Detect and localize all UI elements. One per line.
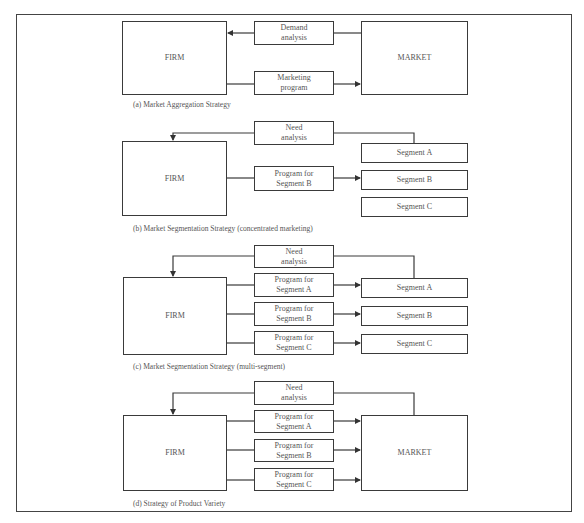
b-need-analysis-box: Need analysis xyxy=(254,121,334,145)
d-firm-label: FIRM xyxy=(165,448,185,458)
c-program-b-box: Program for Segment B xyxy=(254,302,334,326)
d-program-b-label: Program for Segment B xyxy=(275,441,314,461)
b-segment-b-label: Segment B xyxy=(397,175,432,185)
b-caption: (b) Market Segmentation Strategy (concen… xyxy=(133,224,313,233)
a-demand-analysis-box: Demand analysis xyxy=(254,21,334,45)
c-need-analysis-label: Need analysis xyxy=(281,247,307,267)
c-caption: (c) Market Segmentation Strategy (multi-… xyxy=(133,362,285,371)
a-firm-box: FIRM xyxy=(122,21,227,95)
c-segment-b-label: Segment B xyxy=(397,311,432,321)
a-caption: (a) Market Aggregation Strategy xyxy=(133,100,231,109)
a-firm-label: FIRM xyxy=(165,53,185,63)
d-market-label: MARKET xyxy=(398,448,432,458)
c-segment-b-box: Segment B xyxy=(361,306,468,326)
d-program-a-label: Program for Segment A xyxy=(275,412,314,432)
d-need-analysis-box: Need analysis xyxy=(254,381,334,405)
c-program-a-box: Program for Segment A xyxy=(254,273,334,297)
a-marketing-program-box: Marketing program xyxy=(254,71,334,95)
a-marketing-program-label: Marketing program xyxy=(277,73,310,93)
d-market-box: MARKET xyxy=(361,415,468,491)
c-segment-a-label: Segment A xyxy=(397,283,432,293)
b-program-b-box: Program for Segment B xyxy=(254,166,334,191)
d-caption: (d) Strategy of Product Variety xyxy=(133,499,225,508)
c-program-a-label: Program for Segment A xyxy=(275,275,314,295)
a-demand-analysis-label: Demand analysis xyxy=(280,23,307,43)
c-program-b-label: Program for Segment B xyxy=(275,304,314,324)
c-need-analysis-box: Need analysis xyxy=(254,245,334,268)
b-firm-box: FIRM xyxy=(122,141,227,216)
b-segment-c-label: Segment C xyxy=(397,202,432,212)
d-firm-box: FIRM xyxy=(123,415,227,491)
b-need-analysis-label: Need analysis xyxy=(281,123,307,143)
a-market-label: MARKET xyxy=(398,53,432,63)
c-firm-label: FIRM xyxy=(165,311,185,321)
b-segment-c-box: Segment C xyxy=(361,197,468,217)
d-program-b-box: Program for Segment B xyxy=(254,439,334,462)
d-program-a-box: Program for Segment A xyxy=(254,410,334,433)
a-market-box: MARKET xyxy=(361,21,468,95)
b-program-b-label: Program for Segment B xyxy=(275,169,314,189)
c-segment-c-label: Segment C xyxy=(397,339,432,349)
c-firm-box: FIRM xyxy=(123,277,227,355)
b-segment-b-box: Segment B xyxy=(361,170,468,190)
d-program-c-label: Program for Segment C xyxy=(275,470,314,490)
b-firm-label: FIRM xyxy=(165,174,185,184)
c-segment-a-box: Segment A xyxy=(361,278,468,298)
b-segment-a-label: Segment A xyxy=(397,148,432,158)
c-segment-c-box: Segment C xyxy=(361,334,468,354)
b-segment-a-box: Segment A xyxy=(361,143,468,163)
c-program-c-label: Program for Segment C xyxy=(275,333,314,353)
d-program-c-box: Program for Segment C xyxy=(254,468,334,491)
d-need-analysis-label: Need analysis xyxy=(281,383,307,403)
c-program-c-box: Program for Segment C xyxy=(254,331,334,355)
